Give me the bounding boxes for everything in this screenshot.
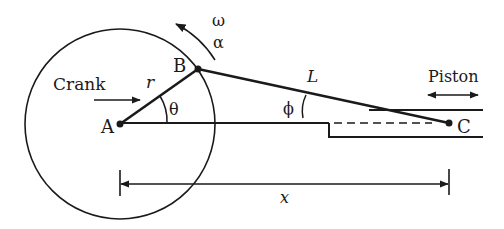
label-piston: Piston: [428, 67, 478, 86]
label-rod-angle: ϕ: [283, 99, 294, 118]
label-displacement: x: [280, 188, 289, 207]
label-crank: Crank: [53, 74, 106, 94]
theta-arc: [160, 96, 167, 123]
slider-crank-diagram: Crank Piston A B C r L θ ϕ ω α x: [0, 0, 504, 229]
joint-c: [446, 120, 453, 127]
joint-b: [195, 66, 202, 73]
crank-link: [120, 69, 198, 124]
label-rod-length: L: [306, 66, 318, 86]
label-angular-acceleration: α: [213, 33, 224, 52]
label-point-c: C: [457, 116, 471, 137]
phi-arc: [302, 95, 306, 118]
joint-a: [117, 121, 124, 128]
label-point-a: A: [100, 116, 115, 137]
label-crank-angle: θ: [169, 100, 179, 119]
label-point-b: B: [173, 55, 186, 76]
label-crank-length: r: [146, 72, 155, 92]
label-angular-velocity: ω: [212, 11, 225, 30]
connecting-rod: [198, 69, 449, 123]
